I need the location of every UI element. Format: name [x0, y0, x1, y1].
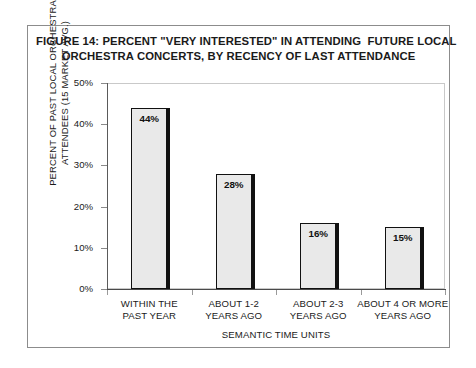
bar-rect: 16%: [300, 223, 336, 289]
bar: 44%: [131, 108, 167, 289]
y-axis-tick-label: 10%: [47, 243, 93, 253]
bar-rect: 44%: [131, 108, 167, 289]
bar-rect: 28%: [216, 174, 252, 289]
x-axis-tick: [276, 290, 277, 295]
bar-value-label: 44%: [132, 113, 166, 124]
x-axis-category-line: ABOUT 2-3: [270, 298, 367, 310]
x-axis-category-line: YEARS AGO: [355, 310, 452, 322]
bar-rect: 15%: [385, 227, 421, 289]
chart-title: FIGURE 14: PERCENT "VERY INTERESTED" IN …: [36, 34, 441, 63]
y-axis-tick: [101, 165, 107, 166]
y-axis-tick: [101, 207, 107, 208]
bar: 15%: [385, 227, 421, 289]
y-axis-tick-label: 30%: [47, 160, 93, 170]
x-axis-category-line: PAST YEAR: [101, 310, 198, 322]
x-axis-category-label: ABOUT 2-3YEARS AGO: [270, 298, 367, 321]
y-axis-tick: [101, 124, 107, 125]
x-axis-category-label: WITHIN THEPAST YEAR: [101, 298, 198, 321]
x-axis-tick: [445, 290, 446, 295]
y-axis-line: [107, 83, 108, 290]
figure-container: FIGURE 14: PERCENT "VERY INTERESTED" IN …: [27, 25, 450, 348]
x-axis-category-line: ABOUT 4 OR MORE: [355, 298, 452, 310]
chart-title-line-1: FIGURE 14: PERCENT "VERY INTERESTED" IN …: [36, 34, 441, 49]
bar: 16%: [300, 223, 336, 289]
y-axis-tick-label: 40%: [47, 119, 93, 129]
y-axis-tick: [101, 248, 107, 249]
x-axis-category-line: YEARS AGO: [270, 310, 367, 322]
x-axis-category-label: ABOUT 4 OR MOREYEARS AGO: [355, 298, 452, 321]
bar-value-label: 28%: [217, 179, 251, 190]
x-axis-tick: [361, 290, 362, 295]
x-axis-category-line: WITHIN THE: [101, 298, 198, 310]
y-axis-tick-label: 20%: [47, 202, 93, 212]
x-axis-tick: [107, 290, 108, 295]
x-axis-tick: [192, 290, 193, 295]
x-axis-category-line: ABOUT 1-2: [186, 298, 283, 310]
y-axis-tick-label: 50%: [47, 78, 93, 88]
x-axis-category-label: ABOUT 1-2YEARS AGO: [186, 298, 283, 321]
bar-value-label: 15%: [386, 232, 420, 243]
bar: 28%: [216, 174, 252, 289]
chart-title-line-2: ORCHESTRA CONCERTS, BY RECENCY OF LAST A…: [36, 49, 441, 64]
y-axis-tick-label: 0%: [47, 284, 93, 294]
x-axis-category-line: YEARS AGO: [186, 310, 283, 322]
y-axis-tick: [101, 83, 107, 84]
bar-value-label: 16%: [301, 228, 335, 239]
x-axis-title: SEMANTIC TIME UNITS: [107, 329, 445, 340]
